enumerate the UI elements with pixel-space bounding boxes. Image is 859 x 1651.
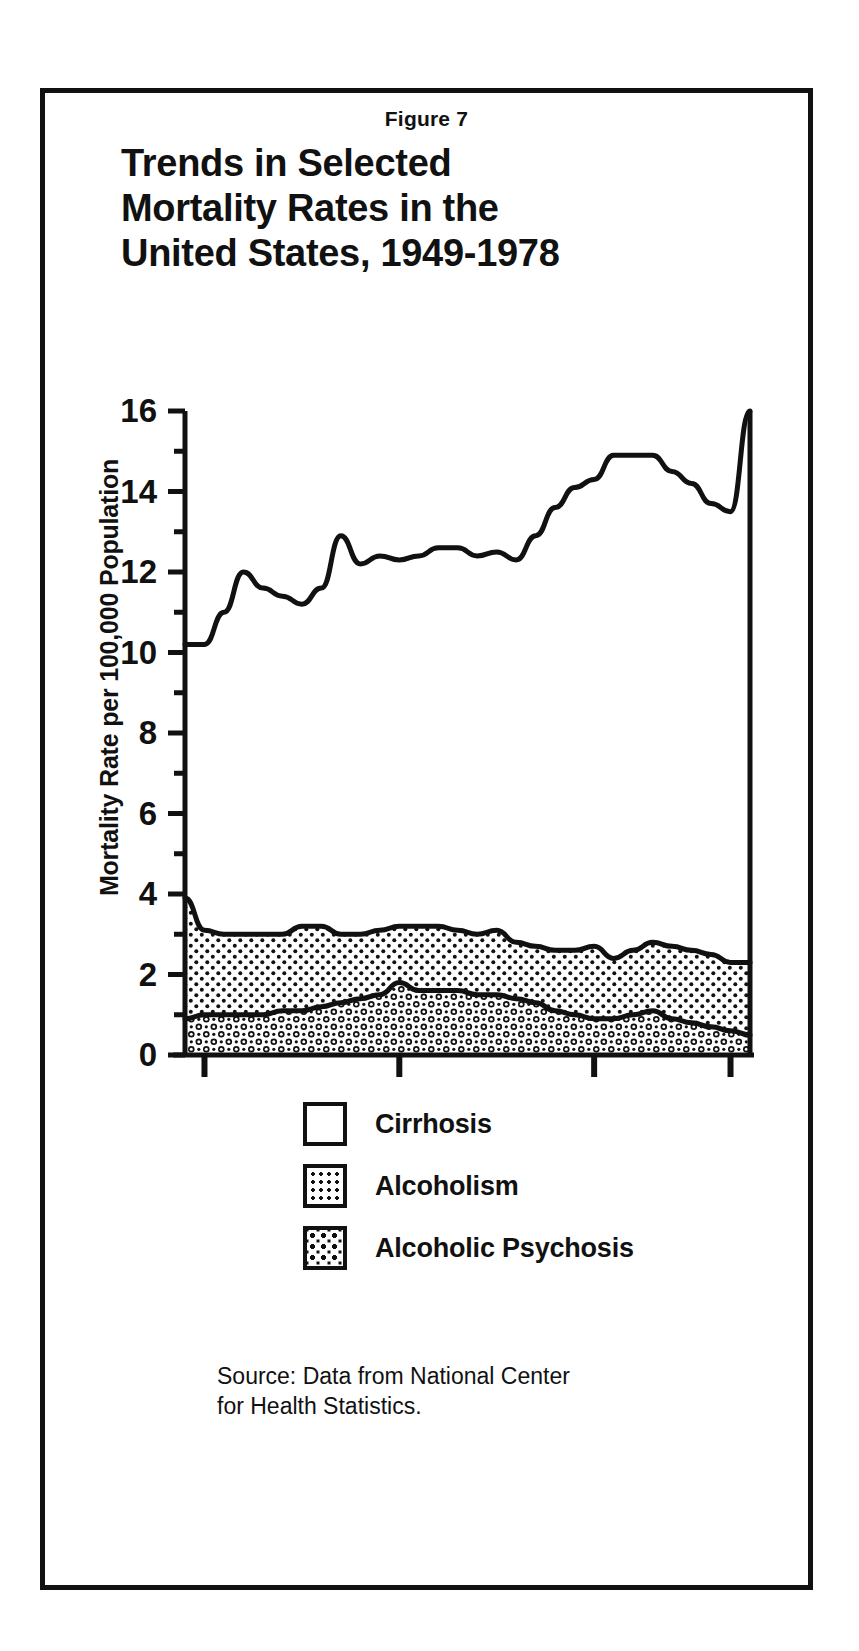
source-note: Source: Data from National Center for He… bbox=[217, 1361, 737, 1422]
legend-label-cirrhosis: Cirrhosis bbox=[375, 1109, 492, 1140]
figure-title-line-2: Mortality Rates in the bbox=[121, 186, 741, 231]
figure-page: Figure 7 Trends in Selected Mortality Ra… bbox=[0, 0, 859, 1651]
legend-label-alcoholic-psychosis: Alcoholic Psychosis bbox=[375, 1233, 634, 1264]
dotted-square-icon bbox=[303, 1164, 347, 1208]
y-tick-label: 4 bbox=[139, 875, 158, 912]
figure-number-label: Figure 7 bbox=[45, 107, 808, 131]
y-tick-label: 2 bbox=[139, 956, 157, 993]
y-tick-label: 14 bbox=[120, 473, 157, 510]
y-tick-label: 0 bbox=[139, 1036, 157, 1073]
mesh-square-icon bbox=[303, 1226, 347, 1270]
legend-item-cirrhosis[interactable]: Cirrhosis bbox=[303, 1093, 823, 1155]
y-tick-label: 8 bbox=[139, 714, 157, 751]
y-tick-label: 10 bbox=[120, 634, 157, 671]
y-tick-label: 16 bbox=[120, 393, 157, 429]
figure-title-line-3: United States, 1949-1978 bbox=[121, 231, 741, 276]
legend-item-alcoholic-psychosis[interactable]: Alcoholic Psychosis bbox=[303, 1217, 823, 1279]
y-tick-label: 12 bbox=[120, 553, 157, 590]
figure-title: Trends in Selected Mortality Rates in th… bbox=[121, 141, 741, 275]
source-note-line-1: Source: Data from National Center bbox=[217, 1361, 737, 1391]
legend-item-alcoholism[interactable]: Alcoholism bbox=[303, 1155, 823, 1217]
chart-plot-area: Mortality Rate per 100,000 Population bbox=[45, 393, 818, 1083]
legend-label-alcoholism: Alcoholism bbox=[375, 1171, 519, 1202]
chart-legend: Cirrhosis Alcoholism Alcoholic Psychosis bbox=[303, 1093, 823, 1279]
source-note-line-2: for Health Statistics. bbox=[217, 1391, 737, 1421]
figure-border-frame: Figure 7 Trends in Selected Mortality Ra… bbox=[40, 88, 813, 1590]
stacked-area-chart: 02468101214161950196019701977 bbox=[45, 393, 818, 1083]
white-square-icon bbox=[303, 1102, 347, 1146]
figure-title-line-1: Trends in Selected bbox=[121, 141, 741, 186]
y-tick-label: 6 bbox=[139, 795, 157, 832]
